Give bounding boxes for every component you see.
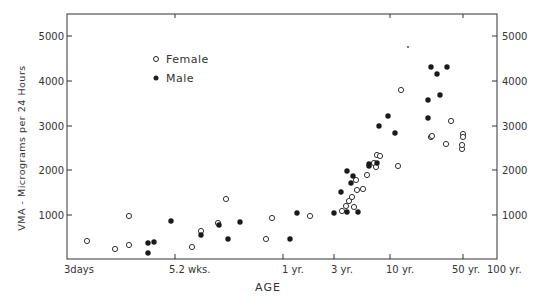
female-data-point (126, 242, 131, 247)
male-data-point (355, 209, 360, 214)
female-data-point (351, 204, 356, 209)
female-data-point (364, 172, 369, 177)
y-axis-title: VMA - Micrograms per 24 Hours (16, 65, 27, 230)
male-data-point (287, 236, 292, 241)
male-data-point (425, 115, 430, 120)
male-data-point (344, 168, 349, 173)
female-data-point (343, 203, 348, 208)
male-data-point (434, 71, 439, 76)
female-data-point (112, 246, 117, 251)
female-data-point (443, 141, 448, 146)
male-data-point (374, 160, 379, 165)
x-axis-title: AGE (255, 281, 281, 294)
x-tick-50-yr: 50 yr. (452, 264, 480, 275)
female-data-point (269, 215, 274, 220)
legend: Female Male (154, 53, 209, 85)
female-data-point (448, 118, 453, 123)
female-data-point (339, 208, 344, 213)
male-data-point (338, 189, 343, 194)
female-series (84, 87, 465, 251)
right-y-tick-2000: 2000 (502, 165, 527, 176)
female-data-point (349, 194, 354, 199)
male-data-point (348, 180, 353, 185)
right-y-tick-5000: 5000 (502, 31, 527, 42)
x-tick-10-yr: 10 yr. (386, 264, 414, 275)
scatter-chart: 5000 4000 3000 2000 1000 5000 4000 3000 … (0, 0, 534, 299)
male-data-point (428, 64, 433, 69)
x-tick-1-yr: 1 yr. (282, 264, 304, 275)
stray-dot (407, 46, 409, 48)
male-data-point (237, 219, 242, 224)
female-marker-icon (154, 57, 159, 62)
male-data-point (425, 97, 430, 102)
y-tick-4000: 4000 (39, 76, 64, 87)
female-data-point (395, 163, 400, 168)
female-data-point (189, 244, 194, 249)
x-tick-5-2-wks: 5.2 wks. (169, 264, 210, 275)
legend-male-label: Male (166, 72, 194, 85)
male-data-point (392, 130, 397, 135)
male-data-point (294, 210, 299, 215)
annotations (407, 46, 409, 48)
male-data-point (376, 123, 381, 128)
x-axis: 3days 5.2 wks. 1 yr. 3 yr. 10 yr. 50 yr.… (64, 254, 522, 275)
right-y-tick-3000: 3000 (502, 121, 527, 132)
female-data-point (459, 142, 464, 147)
male-data-point (145, 250, 150, 255)
male-data-point (331, 210, 336, 215)
male-data-point (350, 173, 355, 178)
female-data-point (377, 153, 382, 158)
female-data-point (398, 87, 403, 92)
male-data-point (385, 113, 390, 118)
male-data-point (444, 64, 449, 69)
legend-female-label: Female (166, 53, 209, 66)
y-tick-2000: 2000 (39, 165, 64, 176)
female-data-point (460, 134, 465, 139)
x-tick-3days: 3days (64, 264, 94, 275)
y-tick-3000: 3000 (39, 121, 64, 132)
female-data-point (84, 238, 89, 243)
male-data-point (198, 232, 203, 237)
female-data-point (223, 196, 228, 201)
right-y-tick-4000: 4000 (502, 76, 527, 87)
x-tick-100-yr: 100 yr. (487, 264, 522, 275)
male-data-point (437, 92, 442, 97)
male-data-point (145, 240, 150, 245)
male-data-point (168, 218, 173, 223)
female-data-point (263, 236, 268, 241)
right-y-tick-1000: 1000 (502, 210, 527, 221)
male-data-point (225, 236, 230, 241)
male-data-point (344, 209, 349, 214)
male-marker-icon (154, 76, 159, 81)
female-data-point (307, 213, 312, 218)
male-data-point (216, 222, 221, 227)
x-tick-3-yr: 3 yr. (331, 264, 353, 275)
male-series (145, 64, 449, 255)
male-data-point (366, 161, 371, 166)
female-data-point (360, 186, 365, 191)
y-tick-5000: 5000 (39, 31, 64, 42)
female-data-point (126, 213, 131, 218)
female-data-point (429, 133, 434, 138)
y-tick-1000: 1000 (39, 210, 64, 221)
female-data-point (354, 187, 359, 192)
male-data-point (151, 239, 156, 244)
